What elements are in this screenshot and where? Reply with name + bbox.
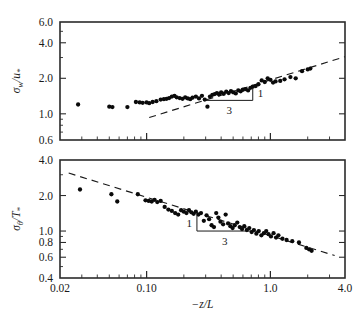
plot-frame-bottom bbox=[60, 160, 345, 278]
data-point bbox=[212, 225, 216, 229]
y-tick-label: 4.0 bbox=[39, 154, 54, 166]
data-point bbox=[276, 233, 280, 237]
data-point bbox=[308, 66, 312, 70]
data-point bbox=[235, 220, 239, 224]
y-tick-label: 6.0 bbox=[39, 16, 54, 28]
y-axis-label: σw/u* bbox=[10, 68, 25, 93]
data-point bbox=[290, 239, 294, 243]
slope-run-label: 3 bbox=[222, 235, 228, 247]
data-point bbox=[297, 240, 301, 244]
y-tick-label: 2.0 bbox=[39, 190, 54, 202]
y-tick-label: 1.0 bbox=[39, 108, 54, 120]
data-point bbox=[288, 75, 292, 79]
data-point bbox=[203, 97, 207, 101]
slope-rise-label: 1 bbox=[186, 217, 192, 229]
data-point bbox=[247, 226, 251, 230]
data-point bbox=[216, 215, 220, 219]
data-point bbox=[76, 102, 80, 106]
data-points-bottom bbox=[78, 187, 314, 253]
slope-rise-label: 1 bbox=[258, 87, 264, 99]
data-point bbox=[204, 213, 208, 217]
data-point bbox=[300, 69, 304, 73]
data-point bbox=[256, 82, 260, 86]
panel-bottom: 0.40.60.81.02.04.00.020.101.04.0−z/Lσθ/T… bbox=[10, 154, 352, 310]
data-point bbox=[273, 79, 277, 83]
data-point bbox=[141, 101, 145, 105]
x-tick-label: 4.0 bbox=[338, 282, 353, 294]
data-points-top bbox=[76, 66, 313, 109]
data-point bbox=[125, 105, 129, 109]
y-tick-label: 0.6 bbox=[39, 251, 54, 263]
data-point bbox=[294, 76, 298, 80]
data-point bbox=[205, 105, 209, 109]
data-point bbox=[309, 249, 313, 253]
data-point bbox=[280, 237, 284, 241]
x-tick-label: 1.0 bbox=[263, 282, 278, 294]
data-point bbox=[252, 228, 256, 232]
x-axis-label: −z/L bbox=[192, 298, 214, 310]
scientific-figure: 0.61.02.04.06.0σw/u*130.40.60.81.02.04.0… bbox=[0, 0, 356, 327]
data-point bbox=[136, 192, 140, 196]
plot-frame-top bbox=[60, 22, 345, 140]
figure-container: 0.61.02.04.06.0σw/u*130.40.60.81.02.04.0… bbox=[0, 0, 356, 327]
data-point bbox=[110, 105, 114, 109]
data-point bbox=[134, 100, 138, 104]
data-point bbox=[278, 79, 282, 83]
data-point bbox=[163, 205, 167, 209]
data-point bbox=[284, 238, 288, 242]
data-point bbox=[214, 211, 218, 215]
data-point bbox=[221, 222, 225, 226]
panel-top: 0.61.02.04.06.0σw/u*13 bbox=[10, 16, 345, 146]
y-tick-label: 2.0 bbox=[39, 72, 54, 84]
reference-line-top bbox=[149, 57, 345, 118]
data-point bbox=[176, 212, 180, 216]
y-axis-label: σθ/T* bbox=[10, 206, 25, 230]
y-tick-label: 0.6 bbox=[39, 134, 54, 146]
slope-run-label: 3 bbox=[226, 104, 232, 116]
data-point bbox=[263, 80, 267, 84]
data-point bbox=[159, 199, 163, 203]
x-tick-label: 0.02 bbox=[50, 282, 70, 294]
data-point bbox=[154, 99, 158, 103]
y-tick-label: 4.0 bbox=[39, 37, 54, 49]
data-point bbox=[242, 224, 246, 228]
x-tick-label: 0.10 bbox=[137, 282, 157, 294]
y-tick-label: 0.8 bbox=[39, 236, 54, 248]
data-point bbox=[282, 77, 286, 81]
data-point bbox=[151, 100, 155, 104]
data-point bbox=[207, 217, 211, 221]
data-point bbox=[257, 229, 261, 233]
data-point bbox=[78, 187, 82, 191]
data-point bbox=[115, 199, 119, 203]
data-point bbox=[202, 219, 206, 223]
data-point bbox=[200, 94, 204, 98]
data-point bbox=[199, 211, 203, 215]
data-point bbox=[224, 212, 228, 216]
data-point bbox=[271, 231, 275, 235]
y-tick-label: 1.0 bbox=[39, 225, 54, 237]
data-point bbox=[109, 192, 113, 196]
